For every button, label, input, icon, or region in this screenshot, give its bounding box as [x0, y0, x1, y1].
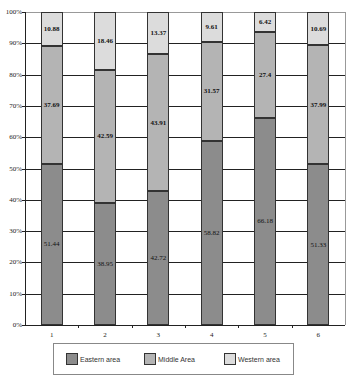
y-tick [22, 106, 26, 107]
bar-group: 51.3337.9910.69 [307, 0, 329, 325]
x-tick [185, 325, 186, 328]
gridline [25, 106, 345, 107]
y-tick [22, 231, 26, 232]
x-tick-label: 1 [42, 331, 62, 339]
data-label: 18.46 [88, 37, 122, 45]
gridline [25, 200, 345, 201]
legend-label: Eastern area [80, 356, 120, 363]
data-label: 13.37 [141, 29, 175, 37]
data-label: 43.91 [141, 119, 175, 127]
x-tick [132, 325, 133, 328]
bar-group: 42.7243.9113.37 [147, 0, 169, 325]
data-label: 10.88 [35, 25, 69, 33]
legend-label: Western area [238, 356, 280, 363]
legend-swatch [66, 353, 78, 365]
y-tick-label: 40% [0, 196, 22, 204]
gridline [25, 294, 345, 295]
data-label: 37.69 [35, 101, 69, 109]
y-tick-label: 0% [0, 321, 22, 329]
y-tick-label: 20% [0, 258, 22, 266]
data-label: 9.61 [195, 23, 229, 31]
data-label: 42.72 [141, 254, 175, 262]
x-tick [292, 325, 293, 328]
x-tick-label: 2 [95, 331, 115, 339]
bar-group: 38.9542.5918.46 [94, 0, 116, 325]
y-tick [22, 75, 26, 76]
x-tick-label: 3 [148, 331, 168, 339]
gridline [25, 12, 345, 13]
y-tick [22, 200, 26, 201]
y-tick-label: 60% [0, 133, 22, 141]
data-label: 58.82 [195, 229, 229, 237]
data-label: 42.59 [88, 132, 122, 140]
data-label: 10.69 [301, 25, 335, 33]
y-tick-label: 30% [0, 227, 22, 235]
legend-item: Middle Area [144, 353, 195, 365]
y-tick-label: 100% [0, 8, 22, 16]
gridline [25, 169, 345, 170]
gridline [25, 231, 345, 232]
x-tick-label: 4 [202, 331, 222, 339]
gridline [25, 75, 345, 76]
y-tick [22, 262, 26, 263]
legend-item: Western area [224, 353, 280, 365]
gridline [25, 137, 345, 138]
data-label: 27.4 [248, 71, 282, 79]
x-tick [238, 325, 239, 328]
legend-swatch [224, 353, 236, 365]
gridline [25, 262, 345, 263]
y-tick [22, 43, 26, 44]
y-tick [22, 325, 26, 326]
legend-item: Eastern area [66, 353, 120, 365]
stacked-bar-chart: 0%10%20%30%40%50%60%70%80%90%100%51.4437… [0, 0, 353, 384]
y-tick [22, 137, 26, 138]
data-label: 66.18 [248, 217, 282, 225]
x-tick-label: 5 [255, 331, 275, 339]
y-tick [22, 12, 26, 13]
bar-group: 51.4437.6910.88 [41, 0, 63, 325]
data-label: 51.44 [35, 240, 69, 248]
data-label: 38.95 [88, 260, 122, 268]
gridline [25, 43, 345, 44]
x-tick [78, 325, 79, 328]
legend-swatch [144, 353, 156, 365]
bar-group: 58.8231.579.61 [201, 0, 223, 325]
y-tick-label: 10% [0, 290, 22, 298]
data-label: 31.57 [195, 87, 229, 95]
y-tick-label: 70% [0, 102, 22, 110]
y-tick-label: 90% [0, 39, 22, 47]
y-tick-label: 80% [0, 71, 22, 79]
data-label: 37.99 [301, 101, 335, 109]
plot-right-border [345, 12, 346, 325]
data-label: 51.33 [301, 241, 335, 249]
bar-group: 66.1827.46.42 [254, 0, 276, 325]
legend-label: Middle Area [158, 356, 195, 363]
y-tick [22, 294, 26, 295]
legend: Eastern areaMiddle AreaWestern area [53, 343, 294, 375]
data-label: 6.42 [248, 18, 282, 26]
x-tick-label: 6 [308, 331, 328, 339]
y-tick [22, 169, 26, 170]
y-tick-label: 50% [0, 165, 22, 173]
